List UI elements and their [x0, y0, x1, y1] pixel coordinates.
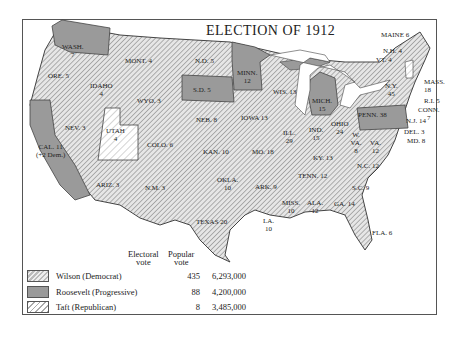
label-iowa: IOWA 13 — [241, 114, 268, 122]
label-utah: UTAH4 — [106, 127, 125, 143]
legend-electoral: 8 — [176, 302, 200, 312]
roosevelt-swatch — [27, 286, 49, 298]
label-mass: MASS.18 — [424, 78, 445, 94]
label-maine: MAINE 6 — [381, 31, 409, 39]
label-la: LA.10 — [263, 217, 274, 233]
label-ga: GA. 14 — [334, 200, 355, 208]
label-wyo: WYO. 3 — [137, 97, 161, 105]
label-ri: R.I. 5 — [424, 97, 440, 105]
label-ariz: ARIZ. 3 — [96, 181, 119, 189]
label-neb: NEB. 8 — [196, 116, 217, 124]
label-miss: MISS.10 — [282, 199, 300, 215]
legend-popular: 3,485,000 — [212, 302, 246, 312]
label-nc: N.C. 12 — [357, 162, 379, 170]
label-kan: KAN. 10 — [203, 148, 229, 156]
label-cal: CAL. 11(+2 Dem.) — [36, 143, 65, 159]
label-ind: IND.15 — [309, 126, 323, 142]
wilson-swatch — [27, 270, 49, 282]
label-sc: S.C. 9 — [352, 184, 369, 192]
label-mo: MO. 18 — [252, 148, 274, 156]
label-mich: MICH.15 — [312, 97, 332, 113]
label-ark: ARK. 9 — [255, 183, 277, 191]
label-wash: WASH.7 — [62, 43, 84, 59]
label-tenn: TENN. 12 — [298, 172, 327, 180]
legend-electoral: 88 — [176, 287, 200, 297]
legend-electoral: 435 — [176, 271, 200, 281]
state-vt — [405, 60, 413, 78]
label-colo: COLO. 6 — [147, 141, 173, 149]
label-ore: ORE. 5 — [48, 72, 69, 80]
label-del: DEL. 3 — [404, 128, 425, 136]
label-ohio: OHIO24 — [331, 120, 349, 136]
label-nm: N.M. 3 — [145, 184, 165, 192]
label-mont: MONT. 4 — [125, 57, 152, 65]
legend-popular-header: Popularvote — [168, 250, 194, 266]
legend-popular: 4,200,000 — [212, 287, 246, 297]
label-ny: N.Y.45 — [385, 82, 398, 98]
label-texas: TEXAS 20 — [196, 218, 227, 226]
legend-popular: 6,293,000 — [212, 271, 246, 281]
label-minn: MINN.12 — [237, 69, 257, 85]
label-nev: NEV. 3 — [65, 124, 85, 132]
legend-candidate: Roosevelt (Progressive) — [56, 287, 176, 297]
taft-swatch — [27, 301, 49, 313]
legend-electoral-header: Electoralvote — [128, 250, 159, 266]
label-nh: N.H. 4 — [383, 47, 402, 55]
label-wis: WIS. 13 — [273, 88, 296, 96]
label-md: MD. 8 — [407, 137, 425, 145]
legend-candidate: Taft (Republican) — [56, 302, 176, 312]
label-okla: OKLA.10 — [217, 176, 238, 192]
legend-row-roosevelt: Roosevelt (Progressive) 88 4,200,000 — [27, 285, 246, 299]
label-sd: S.D. 5 — [193, 86, 211, 94]
legend-row-taft: Taft (Republican) 8 3,485,000 — [27, 300, 246, 314]
map-title: ELECTION OF 1912 — [206, 23, 335, 39]
label-nd: N.D. 5 — [195, 57, 214, 65]
legend-candidate: Wilson (Democrat) — [56, 271, 176, 281]
legend-row-wilson: Wilson (Democrat) 435 6,293,000 — [27, 269, 246, 283]
label-idaho: IDAHO4 — [90, 82, 113, 98]
label-va: VA.12 — [370, 139, 381, 155]
label-wva: W. VA. 8 — [349, 131, 363, 155]
label-fla: FLA. 6 — [372, 229, 392, 237]
label-nj: N.J. 14 — [406, 117, 426, 125]
label-ala: ALA.12 — [307, 199, 323, 215]
label-ill: ILL.29 — [283, 129, 296, 145]
label-ky: KY. 13 — [313, 154, 333, 162]
label-vt: VT. 4 — [376, 56, 392, 64]
label-penn: PENN. 38 — [358, 111, 387, 119]
